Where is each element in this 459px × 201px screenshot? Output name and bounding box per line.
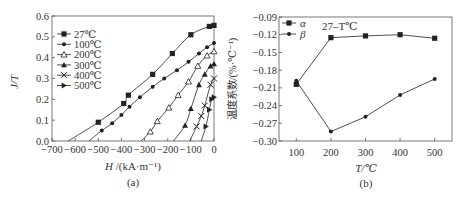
x-axis-label: H /(kA·m⁻¹) bbox=[104, 160, 161, 173]
legend-marker bbox=[62, 83, 67, 89]
legend-marker bbox=[286, 20, 291, 25]
legend-label: β bbox=[299, 28, 306, 40]
x-tick-label: 300 bbox=[358, 147, 374, 158]
data-point bbox=[198, 113, 204, 119]
x-axis-label: T/℃ bbox=[355, 162, 377, 174]
series-400℃ bbox=[190, 76, 217, 142]
legend-marker bbox=[61, 31, 66, 36]
x-tick-label: −300 bbox=[134, 144, 156, 155]
data-point bbox=[208, 82, 214, 88]
data-point bbox=[205, 45, 209, 49]
data-point bbox=[433, 77, 437, 81]
data-point bbox=[170, 51, 175, 56]
data-point bbox=[188, 106, 194, 111]
chart-a: 0.00.10.20.30.40.50.6−700−600−500−400−30… bbox=[8, 11, 217, 190]
data-point bbox=[202, 71, 208, 76]
figure: 0.00.10.20.30.40.50.6−700−600−500−400−30… bbox=[0, 0, 459, 201]
annotation: 27–T℃ bbox=[322, 20, 358, 32]
data-point bbox=[211, 48, 217, 53]
legend-item: β bbox=[282, 28, 306, 40]
x-tick-label: −700 bbox=[41, 144, 63, 155]
x-tick-label: 0 bbox=[211, 144, 216, 155]
data-point bbox=[175, 68, 179, 72]
data-point bbox=[211, 23, 216, 28]
data-point bbox=[126, 93, 131, 98]
data-point bbox=[207, 24, 212, 29]
y-tick-label: −0.12 bbox=[253, 29, 277, 40]
y-tick-label: −0.21 bbox=[253, 82, 277, 93]
y-tick-label: −0.30 bbox=[253, 136, 277, 147]
series-β bbox=[294, 77, 436, 134]
data-point bbox=[398, 32, 403, 37]
data-point bbox=[182, 122, 188, 127]
x-tick-label: −400 bbox=[111, 144, 133, 155]
y-tick-label: −0.27 bbox=[253, 118, 277, 129]
y-axis-label: 温度系数/(%·℃⁻¹) bbox=[226, 37, 239, 120]
data-point bbox=[119, 113, 123, 117]
data-point bbox=[121, 101, 126, 106]
y-tick-label: 0.4 bbox=[36, 52, 50, 63]
data-point bbox=[212, 41, 216, 45]
data-point bbox=[328, 35, 333, 40]
panel-label-b: (b) bbox=[360, 177, 373, 190]
legend-marker bbox=[287, 32, 291, 36]
data-point bbox=[204, 53, 210, 58]
data-point bbox=[100, 129, 104, 133]
data-point bbox=[329, 130, 333, 134]
data-point bbox=[187, 60, 191, 64]
x-tick-label: 200 bbox=[323, 147, 339, 158]
chart-b: −0.09−0.12−0.15−0.18−0.21−0.24−0.27−0.30… bbox=[226, 12, 452, 191]
data-point bbox=[432, 36, 437, 41]
data-point bbox=[150, 72, 155, 77]
legend-marker bbox=[62, 42, 66, 46]
x-tick-label: 100 bbox=[288, 147, 304, 158]
legend-item: 500℃ bbox=[57, 80, 102, 91]
y-tick-label: 0.1 bbox=[36, 115, 49, 126]
y-tick-label: −0.15 bbox=[253, 47, 277, 58]
data-point bbox=[162, 77, 166, 81]
data-point bbox=[186, 79, 192, 84]
y-tick-label: 0.6 bbox=[36, 11, 49, 22]
y-tick-label: 0.5 bbox=[36, 31, 49, 42]
data-point bbox=[196, 82, 202, 87]
data-point bbox=[211, 61, 217, 66]
data-point bbox=[294, 79, 298, 83]
y-tick-label: 0.2 bbox=[36, 94, 49, 105]
data-point bbox=[151, 85, 155, 89]
x-tick-label: −200 bbox=[157, 144, 179, 155]
data-point bbox=[197, 52, 201, 56]
x-tick-label: 400 bbox=[392, 147, 408, 158]
panel-label-a: (a) bbox=[127, 176, 140, 189]
series-α bbox=[294, 32, 438, 87]
data-point bbox=[364, 115, 368, 119]
data-point bbox=[363, 33, 368, 38]
x-tick-label: −500 bbox=[87, 144, 109, 155]
series-500℃ bbox=[201, 94, 217, 141]
data-point bbox=[398, 93, 402, 97]
y-tick-label: 0.3 bbox=[36, 73, 49, 84]
data-point bbox=[110, 121, 114, 125]
y-tick-label: −0.09 bbox=[253, 12, 277, 23]
y-axis-label: J/T bbox=[8, 74, 20, 89]
data-point bbox=[138, 95, 142, 99]
legend-label: 500℃ bbox=[74, 80, 102, 91]
data-point bbox=[128, 105, 132, 109]
data-point bbox=[194, 123, 200, 129]
data-point bbox=[147, 129, 153, 134]
y-tick-label: −0.24 bbox=[253, 100, 278, 111]
data-point bbox=[96, 120, 101, 125]
figure-canvas: 0.00.10.20.30.40.50.6−700−600−500−400−30… bbox=[0, 0, 459, 201]
data-point bbox=[202, 103, 208, 109]
y-tick-label: −0.18 bbox=[253, 65, 277, 76]
x-tick-label: −100 bbox=[180, 144, 202, 155]
x-tick-label: 500 bbox=[427, 147, 443, 158]
x-tick-label: −600 bbox=[64, 144, 86, 155]
data-point bbox=[188, 32, 193, 37]
